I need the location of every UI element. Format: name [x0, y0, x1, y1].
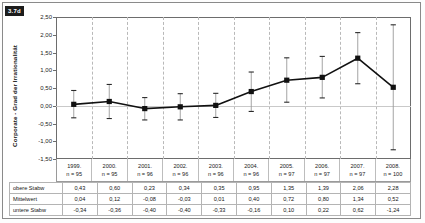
table-cell-value: 2,28	[376, 183, 411, 194]
x-axis-category-cell: 1999.n = 95	[57, 159, 92, 181]
y-axis-tick-label: 1,50	[26, 50, 52, 56]
table-cell-value: -0,08	[132, 194, 167, 205]
x-axis-year-label: 2005.	[280, 162, 294, 170]
x-axis-year-label: 2003.	[209, 162, 223, 170]
table-cell-value: -0,36	[97, 205, 132, 216]
y-axis-tick-label: 2,50	[26, 14, 52, 20]
x-axis-category-cell: 2004.n = 96	[234, 159, 269, 181]
table-cell-value: 0,35	[202, 183, 237, 194]
table-cell-value: 0,52	[376, 194, 411, 205]
x-axis-category-cell: 2003.n = 96	[199, 159, 234, 181]
table-cell-value: 0,40	[236, 194, 271, 205]
table-cell-value: -0,03	[167, 194, 202, 205]
x-axis-sample-size-label: n = 95	[66, 170, 82, 178]
x-axis-year-label: 2007.	[350, 162, 364, 170]
x-axis-year-label: 2001.	[138, 162, 152, 170]
table-row: obere Stabw0,430,600,230,340,350,951,351…	[10, 183, 411, 194]
x-axis-sample-size-label: n = 97	[350, 170, 366, 178]
y-axis-tick-label: -1,50	[26, 156, 52, 162]
y-axis-tick-label: 2,00	[26, 32, 52, 38]
x-axis-year-label: 2008.	[386, 162, 400, 170]
table-cell-value: -0,33	[202, 205, 237, 216]
table-cell-value: 0,43	[63, 183, 98, 194]
series-line-mittelwert	[74, 58, 394, 108]
y-axis-title: Corporate - Grad der Irrationalität	[11, 26, 23, 166]
table-row-label: untere Stabw	[10, 205, 63, 216]
table-cell-value: 0,23	[132, 183, 167, 194]
table-cell-value: 0,01	[202, 194, 237, 205]
x-axis-sample-size-label: n = 96	[173, 170, 189, 178]
figure-tag: 3.7d	[5, 6, 24, 16]
x-axis-sample-size-label: n = 97	[279, 170, 295, 178]
table-cell-value: 0,04	[63, 194, 98, 205]
table-cell-value: 0,34	[167, 183, 202, 194]
data-point-marker	[71, 102, 76, 107]
x-axis-year-label: 1999.	[67, 162, 81, 170]
data-point-marker	[178, 104, 183, 109]
data-point-marker	[355, 56, 360, 61]
figure-root: 3.7d Corporate - Grad der Irrationalität…	[0, 0, 425, 223]
table-cell-value: 0,10	[271, 205, 306, 216]
x-axis-labels: 1999.n = 952000.n = 952001.n = 962002.n …	[56, 159, 411, 182]
table-cell-value: 1,34	[341, 194, 376, 205]
y-axis-tick-label: 0,00	[26, 103, 52, 109]
y-axis-tick-label: -1,00	[26, 138, 52, 144]
plot-wrapper: 2,502,001,501,000,500,00-0,50-1,00-1,50	[56, 17, 411, 159]
table-cell-value: 1,39	[306, 183, 341, 194]
table-row-label: Mittelwert	[10, 194, 63, 205]
data-point-marker	[107, 99, 112, 104]
y-axis-tick-label: -0,50	[26, 121, 52, 127]
table-cell-value: 0,62	[341, 205, 376, 216]
table-cell-value: -0,40	[132, 205, 167, 216]
x-axis-sample-size-label: n = 96	[137, 170, 153, 178]
stats-table: obere Stabw0,430,600,230,340,350,951,351…	[9, 182, 411, 216]
x-axis-sample-size-label: n = 97	[314, 170, 330, 178]
x-axis-sample-size-label: n = 96	[243, 170, 259, 178]
x-axis-category-cell: 2006.n = 97	[305, 159, 340, 181]
x-axis-sample-size-label: n = 100	[383, 170, 402, 178]
table-row-label: obere Stabw	[10, 183, 63, 194]
data-point-marker	[249, 89, 254, 94]
series-layer	[56, 17, 411, 159]
x-axis-sample-size-label: n = 96	[208, 170, 224, 178]
table-cell-value: 2,06	[341, 183, 376, 194]
y-axis-tick-label: 1,00	[26, 67, 52, 73]
table-cell-value: 0,60	[97, 183, 132, 194]
x-axis-year-label: 2002.	[173, 162, 187, 170]
data-point-marker	[284, 78, 289, 83]
x-axis-category-cell: 2002.n = 96	[163, 159, 198, 181]
data-point-marker	[320, 75, 325, 80]
table-cell-value: 0,80	[306, 194, 341, 205]
y-axis-tick-label: 0,50	[26, 85, 52, 91]
table-cell-value: 0,22	[306, 205, 341, 216]
x-axis-year-label: 2000.	[103, 162, 117, 170]
x-axis-category-cell: 2000.n = 95	[92, 159, 127, 181]
x-axis-category-cell: 2007.n = 97	[340, 159, 375, 181]
x-axis-category-cell: 2008.n = 100	[376, 159, 410, 181]
table-cell-value: -1,24	[376, 205, 411, 216]
table-cell-value: -0,34	[63, 205, 98, 216]
table-row: Mittelwert0,040,12-0,08-0,030,010,400,72…	[10, 194, 411, 205]
table-cell-value: 1,35	[271, 183, 306, 194]
x-axis-sample-size-label: n = 95	[102, 170, 118, 178]
x-axis-category-cell: 2005.n = 97	[269, 159, 304, 181]
data-point-marker	[391, 85, 396, 90]
table-cell-value: -0,40	[167, 205, 202, 216]
x-axis-year-label: 2006.	[315, 162, 329, 170]
table-cell-value: 0,72	[271, 194, 306, 205]
table-cell-value: 0,95	[236, 183, 271, 194]
table-cell-value: -0,16	[236, 205, 271, 216]
x-axis-year-label: 2004.	[244, 162, 258, 170]
table-row: untere Stabw-0,34-0,36-0,40-0,40-0,33-0,…	[10, 205, 411, 216]
data-point-marker	[142, 106, 147, 111]
table-cell-value: 0,12	[97, 194, 132, 205]
data-point-marker	[213, 103, 218, 108]
x-axis-category-cell: 2001.n = 96	[128, 159, 163, 181]
